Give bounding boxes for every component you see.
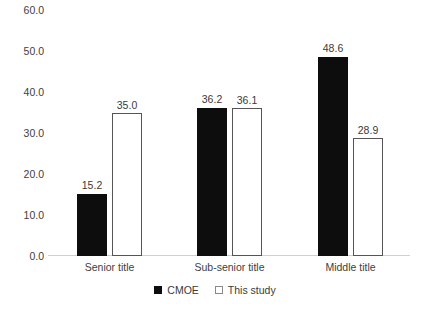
x-axis-line-left-cap (48, 255, 50, 256)
y-axis-tick-label: 40.0 (24, 87, 44, 98)
bar-group: 36.2 36.1 Sub-senior title (197, 10, 262, 256)
y-axis-tick-label: 30.0 (24, 128, 44, 139)
plot-area: 60.0 50.0 40.0 30.0 20.0 10.0 0.0 15.2 3… (50, 10, 410, 256)
legend-label: CMOE (167, 285, 199, 296)
y-axis-tick-label: 50.0 (24, 46, 44, 57)
bar-value-label: 36.1 (237, 95, 257, 106)
category-label: Senior title (85, 262, 135, 273)
chart-legend: CMOE This study (0, 285, 430, 296)
bar-group: 48.6 28.9 Middle title (318, 10, 383, 256)
category-label: Sub-senior title (194, 262, 264, 273)
legend-item-this-study[interactable]: This study (215, 285, 276, 296)
bar-this-study[interactable]: 28.9 (353, 138, 383, 256)
bar-this-study[interactable]: 35.0 (112, 113, 142, 256)
bar-cmoe[interactable]: 36.2 (197, 108, 227, 256)
legend-swatch-icon (154, 286, 162, 294)
legend-swatch-icon (215, 286, 223, 294)
bar-group: 15.2 35.0 Senior title (77, 10, 142, 256)
legend-label: This study (228, 285, 276, 296)
category-label: Middle title (325, 262, 375, 273)
y-axis-tick-label: 10.0 (24, 210, 44, 221)
bar-value-label: 15.2 (82, 180, 102, 191)
bar-chart: 60.0 50.0 40.0 30.0 20.0 10.0 0.0 15.2 3… (0, 0, 430, 311)
y-axis-tick-label: 60.0 (24, 5, 44, 16)
y-axis-tick-label: 0.0 (29, 251, 44, 262)
y-axis-tick-label: 20.0 (24, 169, 44, 180)
bar-this-study[interactable]: 36.1 (232, 108, 262, 256)
bar-value-label: 28.9 (358, 125, 378, 136)
legend-item-cmoe[interactable]: CMOE (154, 285, 199, 296)
bar-value-label: 48.6 (323, 43, 343, 54)
bar-cmoe[interactable]: 48.6 (318, 57, 348, 256)
bar-value-label: 36.2 (202, 94, 222, 105)
bar-value-label: 35.0 (117, 100, 137, 111)
bar-cmoe[interactable]: 15.2 (77, 194, 107, 256)
